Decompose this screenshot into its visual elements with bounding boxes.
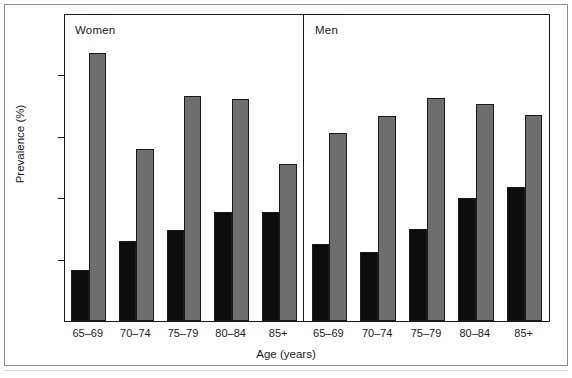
bar-group [403,15,452,321]
x-tick-label: 75–79 [168,327,199,339]
bar-gray [476,104,494,321]
x-tick-label: 85+ [514,327,533,339]
bar-group [160,15,208,321]
bar-black [167,230,184,321]
bar-gray [184,96,201,321]
caption-rule [4,370,568,371]
bar-black [507,187,525,321]
bar-black [458,198,476,321]
panel-women: Women [65,15,303,321]
bars-men [305,15,549,321]
plot-area: Women Men [64,14,550,322]
bar-gray [378,116,396,321]
bar-black [214,212,231,321]
bar-gray [279,164,296,321]
bar-group [500,15,549,321]
x-tick-label: 75–79 [411,327,442,339]
x-tick-label: 65–69 [73,327,104,339]
bars-women [65,15,303,321]
bar-gray [525,115,543,321]
bar-gray [427,98,445,321]
bar-black [360,252,378,321]
bar-group [451,15,500,321]
x-tick-label: 80–84 [460,327,491,339]
bar-gray [89,53,106,321]
x-tick-label: 70–74 [362,327,393,339]
bar-group [113,15,161,321]
panel-men: Men [305,15,549,321]
bar-black [312,244,330,321]
bar-black [71,270,88,321]
bar-gray [329,133,347,321]
bar-gray [136,149,153,321]
bar-group [305,15,354,321]
bar-black [119,241,136,321]
x-tick-label: 65–69 [313,327,344,339]
bar-group [65,15,113,321]
x-tick-label: 80–84 [215,327,246,339]
x-tick-label: 70–74 [120,327,151,339]
x-axis-title: Age (years) [0,348,572,360]
bar-black [262,212,279,321]
bar-group [208,15,256,321]
bar-black [409,229,427,321]
bar-group [354,15,403,321]
bar-group [255,15,303,321]
y-axis-title: Prevalence (%) [14,54,26,234]
bar-gray [232,99,249,321]
x-tick-label: 85+ [269,327,288,339]
